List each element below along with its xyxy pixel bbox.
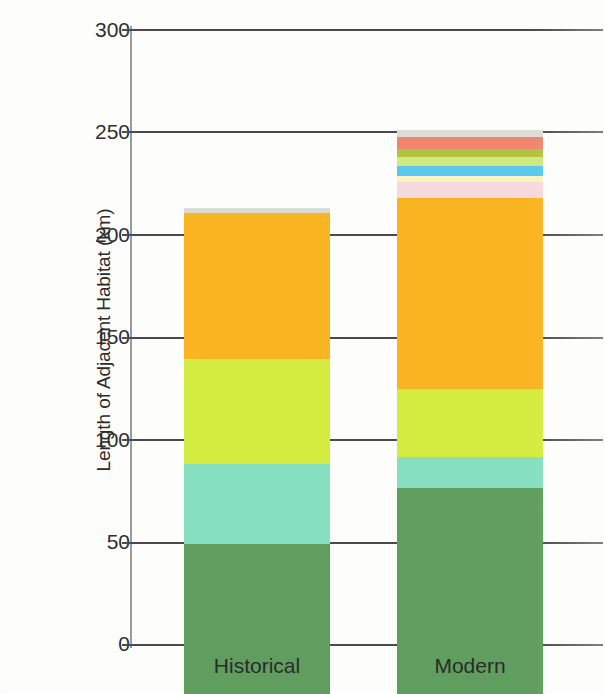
y-tick-mark-150 [122, 337, 132, 339]
y-tick-mark-100 [122, 439, 132, 441]
bar-segment-modern-6 [397, 176, 543, 182]
bar-segment-modern-8 [397, 157, 543, 166]
bar-segment-modern-10 [397, 137, 543, 149]
bar-segment-modern-5 [397, 182, 543, 198]
y-tick-label-250: 250 [40, 120, 130, 144]
bar-segment-modern-11 [397, 130, 543, 137]
bar-segment-modern-2 [397, 457, 543, 488]
x-axis-label-historical: Historical [184, 654, 330, 678]
y-axis-tick-labels: 300 250 200 150 100 50 0 [0, 0, 130, 694]
y-tick-label-100: 100 [40, 428, 130, 452]
bar-segment-modern-3 [397, 389, 543, 457]
bar-segment-historical-3 [184, 359, 330, 464]
bar-segment-historical-11 [184, 208, 330, 213]
bar-segment-historical-4 [184, 213, 330, 359]
y-tick-label-0: 0 [40, 632, 130, 656]
x-axis-label-modern: Modern [397, 654, 543, 678]
y-tick-mark-300 [122, 29, 132, 31]
bar-historical[interactable] [184, 50, 330, 694]
bar-segment-modern-7 [397, 166, 543, 176]
bar-segment-historical-2 [184, 464, 330, 544]
y-tick-mark-0 [122, 644, 132, 646]
y-tick-label-50: 50 [40, 530, 130, 554]
plot-area: Historical Modern [130, 0, 605, 694]
bar-segment-modern-9 [397, 149, 543, 157]
y-tick-mark-50 [122, 542, 132, 544]
y-tick-label-150: 150 [40, 325, 130, 349]
y-tick-label-200: 200 [40, 223, 130, 247]
y-tick-mark-250 [122, 131, 132, 133]
stacked-bar-chart: Length of Adjacent Habitat (km) 300 250 … [0, 0, 605, 694]
bar-segment-modern-4 [397, 198, 543, 389]
y-tick-label-300: 300 [40, 18, 130, 42]
gridline-300 [130, 29, 603, 31]
bar-modern[interactable] [397, 50, 543, 694]
y-tick-mark-200 [122, 234, 132, 236]
